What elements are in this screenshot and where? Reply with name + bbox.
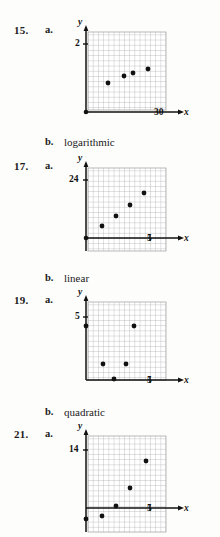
x-axis-label-21: x — [184, 503, 189, 513]
part-a-label-19: a. — [45, 294, 53, 305]
problem-21: 21. a. — [0, 428, 220, 537]
answer-text-19: quadratic — [64, 406, 105, 418]
part-b-label-19: b. — [45, 406, 53, 417]
y-axis-label-19: y — [78, 287, 82, 297]
x-axis-label-15: x — [184, 107, 189, 117]
y-tick-label-21: 14 — [69, 444, 79, 454]
plot-21-svg — [72, 428, 192, 537]
y-axis-label-15: y — [78, 17, 82, 27]
answer-text-17: linear — [64, 272, 89, 284]
part-b-label-15: b. — [45, 136, 53, 147]
part-a-label-15: a. — [45, 24, 53, 35]
answer-line-19: b. quadratic — [0, 406, 220, 420]
part-a-label-21: a. — [45, 428, 53, 439]
x-tick-label-19: 5 — [147, 375, 152, 385]
answer-line-17: b. linear — [0, 272, 220, 286]
y-tick-label-17: 24 — [69, 174, 79, 184]
x-axis-label-17: x — [184, 233, 189, 243]
y-tick-label-19: 5 — [75, 311, 80, 321]
part-a-label-17: a. — [45, 160, 53, 171]
scatter-plot-15: y x 2 30 — [72, 24, 192, 120]
problem-15: 15. a. — [0, 24, 220, 124]
problem-number-19: 19. — [14, 294, 28, 306]
problem-number-17: 17. — [14, 160, 28, 172]
plot-17-svg — [72, 160, 192, 256]
problem-number-21: 21. — [14, 428, 28, 440]
y-axis-label-21: y — [78, 421, 82, 431]
answer-key-page: 15. a. — [0, 0, 220, 537]
scatter-plot-19: y x 5 5 — [72, 294, 192, 390]
plot-19-svg — [72, 294, 192, 390]
problem-19: 19. a. — [0, 294, 220, 394]
answer-line-15: b. logarithmic — [0, 136, 220, 150]
scatter-plot-21: y x 14 5 — [72, 428, 192, 537]
x-tick-label-21: 5 — [147, 503, 152, 513]
problem-17: 17. a. — [0, 160, 220, 260]
answer-text-15: logarithmic — [64, 136, 115, 148]
plot-15-svg — [72, 24, 192, 120]
scatter-plot-17: y x 24 5 — [72, 160, 192, 256]
part-b-label-17: b. — [45, 272, 53, 283]
y-tick-label-15: 2 — [75, 38, 80, 48]
x-tick-label-17: 5 — [147, 233, 152, 243]
x-tick-label-15: 30 — [154, 107, 164, 117]
x-axis-label-19: x — [184, 375, 189, 385]
problem-number-15: 15. — [14, 24, 28, 36]
y-axis-label-17: y — [78, 153, 82, 163]
